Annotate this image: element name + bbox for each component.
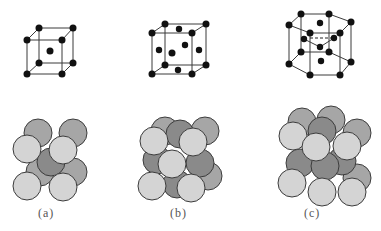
crystal-structures-diagram [0, 0, 381, 231]
fcc-unit-cell [149, 21, 210, 78]
hcp-sphere-packing [278, 106, 371, 206]
hcp-unit-cell [286, 11, 355, 79]
panel-label-b: (b) [170, 206, 187, 221]
bcc-unit-cell [24, 25, 77, 78]
panel-label-a: (a) [38, 206, 54, 221]
bcc-sphere-packing [13, 119, 87, 201]
fcc-sphere-packing [138, 117, 222, 202]
panel-label-c: (c) [304, 206, 320, 221]
